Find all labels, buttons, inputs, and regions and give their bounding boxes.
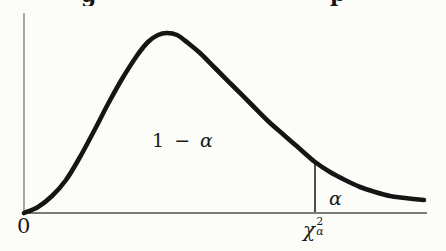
distribution-plot	[0, 0, 446, 251]
critical-value-label: χ 2 α	[303, 218, 324, 242]
chi-symbol: χ	[303, 218, 315, 242]
chi-supsub: 2 α	[316, 216, 323, 237]
body-area-label: 1 − α	[152, 129, 215, 151]
origin-label: 0	[17, 214, 30, 238]
distribution-curve	[24, 33, 424, 213]
chi-square-distribution-figure: g p 1 − α α 0 χ 2 α	[0, 0, 446, 251]
tail-area-label: α	[329, 187, 342, 209]
chi-subscript: α	[316, 227, 323, 237]
body-area-prefix: 1 −	[152, 129, 192, 151]
body-area-alpha: α	[200, 129, 215, 151]
